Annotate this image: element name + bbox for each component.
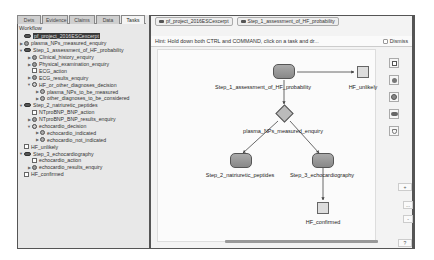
tree-item[interactable]: ▶plasma_NPs_measured_enquiry — [18, 40, 148, 47]
tree-item-label: echocardio_decision — [39, 123, 86, 129]
tree-item[interactable]: HF_unlikely — [18, 143, 148, 150]
plan-icon — [391, 112, 398, 116]
action-icon — [32, 68, 37, 73]
tree-item[interactable]: ▶echocardio_results_enquiry — [18, 164, 148, 171]
tab-tasks[interactable]: Tasks — [121, 15, 145, 24]
tree-item-label: HF_or_other_diagnoses_decision — [39, 82, 117, 88]
tree-item-label: echocardio_results_enquiry — [39, 164, 102, 170]
action-icon — [24, 172, 29, 177]
plan-icon — [159, 20, 164, 23]
tree-item[interactable]: ▼Step_1_assessment_of_HF_probability — [18, 47, 148, 54]
checkbox-icon[interactable] — [383, 39, 388, 44]
enquiry-icon — [32, 62, 37, 67]
tab-evidence[interactable]: Evidence — [42, 15, 68, 24]
decision-icon — [32, 124, 37, 129]
circle-icon — [391, 94, 397, 100]
enquiry-icon — [32, 75, 37, 80]
node-label-step2: Step_2_natriuretic_peptides — [206, 172, 275, 178]
tree-item[interactable]: ▼HF_or_other_diagnoses_decision — [18, 81, 148, 88]
tree-item[interactable]: ▶plasma_NPs_to_be_measured — [18, 88, 148, 95]
tree-item[interactable]: ▶NTproBNP_BNP_results_enquiry — [18, 116, 148, 123]
action-icon — [24, 144, 29, 149]
node-step1-plan[interactable] — [273, 64, 295, 79]
tree-item[interactable]: ▶echocardio_indicated — [18, 129, 148, 136]
tree-item[interactable]: ▶echocardio_not_indicated — [18, 136, 148, 143]
decision-tool-button[interactable] — [389, 92, 399, 102]
horizontal-scrollbar[interactable] — [225, 240, 378, 243]
node-hf-unlikely-action[interactable] — [357, 66, 369, 78]
workflow-title: Workflow — [19, 25, 42, 31]
hint-bar: Hint: Hold down both CTRL and COMMAND, c… — [151, 36, 412, 47]
tree-item-label: plasma_NPs_measured_enquiry — [31, 40, 106, 46]
tree-item-label: other_diagnoses_to_be_considered — [47, 95, 130, 101]
tree-item[interactable]: ▶ECG_results_enquiry — [18, 74, 148, 81]
action-icon — [32, 158, 37, 163]
tree-item-label: Step_1_assessment_of_HF_probability — [33, 47, 124, 53]
plan-icon — [241, 20, 246, 23]
tree-item-label: echocardio_indicated — [47, 130, 96, 136]
tree-item[interactable]: pf_project_2016ESCexcerpt — [18, 33, 148, 40]
tree-item-label: HF_unlikely — [31, 144, 58, 150]
node-hf-confirmed-action[interactable] — [317, 202, 329, 214]
node-label-hf-unlikely: HF_unlikely — [349, 84, 378, 90]
breadcrumb-item-step1[interactable]: Step_1_assessment_of_HF_probability — [237, 17, 339, 26]
tab-claims[interactable]: Claims — [69, 15, 95, 24]
tab-dets[interactable]: Dets — [17, 15, 41, 24]
node-step3-plan[interactable] — [312, 153, 334, 168]
enquiry-icon — [24, 41, 29, 46]
tree-item[interactable]: ECG_action — [18, 67, 148, 74]
breadcrumb-label: Step_1_assessment_of_HF_probability — [248, 18, 335, 25]
candidate-icon — [40, 137, 45, 142]
tree-item[interactable]: ▼Step_3_echocardiography — [18, 150, 148, 157]
plan-icon — [24, 103, 31, 107]
square-icon — [392, 61, 397, 66]
candidate-icon — [40, 96, 45, 101]
node-label-plasma: plasma_NPs_measured_enquiry — [243, 128, 323, 134]
left-panel-tabs: Dets Evidence Claims Data Tasks — [17, 15, 146, 24]
tree-item-label: plasma_NPs_to_be_measured — [47, 89, 118, 95]
node-label-step3: Step_3_echocardiography — [290, 172, 354, 178]
plan-icon — [24, 34, 31, 38]
tree-item[interactable]: ▼Step_2_natriuretic_peptides — [18, 102, 148, 109]
enquiry-icon — [32, 55, 37, 60]
tree-item[interactable]: echocardio_action — [18, 157, 148, 164]
breadcrumb-label: pf_project_2016ESCexcerpt — [166, 18, 229, 25]
tree-item-label: HF_confirmed — [31, 171, 64, 177]
tree-item[interactable]: NTproBNP_BNP_action — [18, 109, 148, 116]
task-toolbox — [386, 58, 402, 143]
zoom-out-button[interactable]: - — [403, 215, 413, 223]
zoom-fit-button[interactable]: ... — [403, 201, 413, 209]
tree-item-label: Physical_examination_enquiry — [39, 61, 109, 67]
tree-item-label: Clinical_history_enquiry — [39, 54, 94, 60]
shield-icon — [392, 129, 397, 134]
tree-item[interactable]: ▶Physical_examination_enquiry — [18, 61, 148, 68]
plan-icon — [24, 152, 31, 156]
dismiss-label: Dismiss — [390, 38, 408, 45]
tree-item-label: NTproBNP_BNP_action — [39, 109, 94, 115]
candidate-icon — [40, 89, 45, 94]
plan-tool-button[interactable] — [389, 109, 399, 119]
action-tool-button[interactable] — [389, 58, 399, 68]
keystone-tool-button[interactable] — [389, 126, 399, 136]
hint-text: Hint: Hold down both CTRL and COMMAND, c… — [155, 38, 319, 44]
breadcrumb-item-project[interactable]: pf_project_2016ESCexcerpt — [155, 17, 233, 26]
tab-data[interactable]: Data — [96, 15, 120, 24]
tree-item[interactable]: ▶Clinical_history_enquiry — [18, 54, 148, 61]
panel-divider — [413, 15, 415, 249]
dismiss-checkbox[interactable]: Dismiss — [383, 38, 408, 45]
tree-item-label: echocardio_action — [39, 157, 81, 163]
enquiry-tool-button[interactable] — [389, 75, 399, 85]
tree-item[interactable]: ▼echocardio_decision — [18, 123, 148, 130]
tree-item[interactable]: ▶other_diagnoses_to_be_considered — [18, 95, 148, 102]
tree-item[interactable]: HF_confirmed — [18, 171, 148, 178]
help-button[interactable]: ? — [398, 239, 412, 247]
tree-item-label: ECG_action — [39, 68, 67, 74]
enquiry-icon — [32, 117, 37, 122]
tree-item-label: Step_3_echocardiography — [33, 151, 94, 157]
tree-item-label: pf_project_2016ESCexcerpt — [33, 33, 100, 39]
decision-icon — [32, 82, 37, 87]
node-step2-plan[interactable] — [230, 153, 252, 168]
tree-item-label: NTproBNP_BNP_results_enquiry — [39, 116, 116, 122]
zoom-in-button[interactable]: + — [398, 183, 412, 191]
graph-canvas[interactable] — [157, 49, 376, 242]
